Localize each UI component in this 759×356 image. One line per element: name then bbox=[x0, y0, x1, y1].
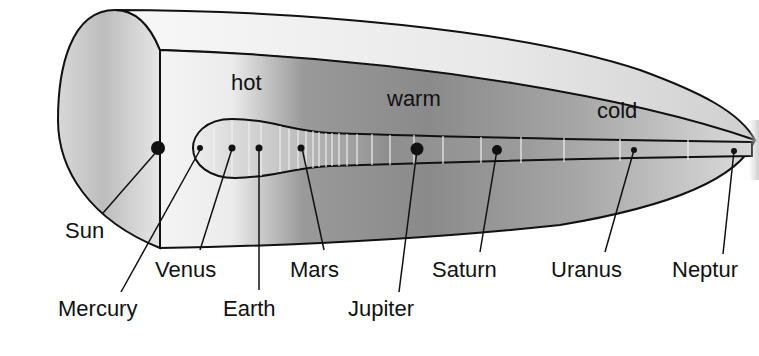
label-mercury: Mercury bbox=[58, 298, 137, 320]
label-jupiter: Jupiter bbox=[348, 298, 414, 320]
label-sun: Sun bbox=[65, 220, 104, 242]
mercury-dot bbox=[197, 145, 203, 151]
zone-label-hot: hot bbox=[231, 72, 262, 94]
nebula-end-cap bbox=[58, 10, 160, 248]
mars-dot bbox=[298, 145, 305, 152]
saturn-dot bbox=[492, 145, 502, 155]
zone-label-warm: warm bbox=[387, 88, 441, 110]
sun-dot bbox=[151, 141, 165, 155]
right-edge-shadow bbox=[749, 120, 759, 180]
neptune-dot bbox=[731, 148, 737, 154]
uranus-dot bbox=[631, 147, 637, 153]
label-neptune: Neptur bbox=[672, 259, 738, 281]
venus-dot bbox=[229, 145, 236, 152]
label-venus: Venus bbox=[155, 259, 216, 281]
label-earth: Earth bbox=[223, 298, 276, 320]
label-mars: Mars bbox=[290, 259, 339, 281]
label-uranus: Uranus bbox=[551, 259, 622, 281]
label-saturn: Saturn bbox=[432, 259, 497, 281]
jupiter-dot bbox=[411, 143, 424, 156]
earth-dot bbox=[256, 145, 263, 152]
zone-label-cold: cold bbox=[597, 100, 637, 122]
